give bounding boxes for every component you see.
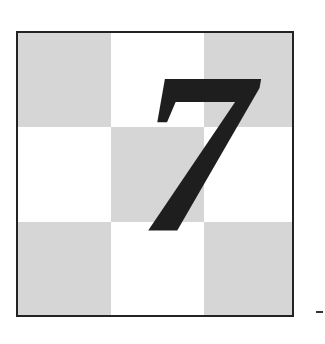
checkerboard-frame: 7	[16, 31, 294, 317]
dash-mark	[316, 311, 323, 313]
grid-cell-1-1	[18, 33, 111, 127]
grid-cell-2-1	[18, 127, 111, 222]
digit-seven: 7	[136, 39, 256, 269]
grid-cell-3-1	[18, 222, 111, 315]
